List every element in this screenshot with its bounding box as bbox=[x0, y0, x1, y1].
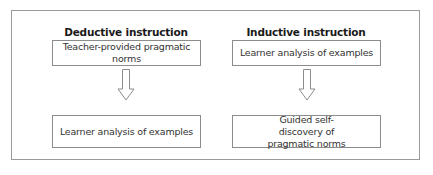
inductive-step-1-label: Learner analysis of examples bbox=[240, 47, 373, 59]
deductive-step-1-label: Teacher-provided pragmatic norms bbox=[57, 41, 196, 65]
down-arrow-icon bbox=[117, 69, 135, 101]
inductive-step-2-label: Guided self-discovery of pragmatic norms bbox=[263, 114, 350, 150]
deductive-step-2-box: Learner analysis of examples bbox=[52, 115, 201, 148]
down-arrow-icon bbox=[298, 69, 316, 101]
inductive-step-2-box: Guided self-discovery of pragmatic norms bbox=[232, 115, 381, 148]
deductive-step-2-label: Learner analysis of examples bbox=[60, 126, 193, 138]
inductive-heading: Inductive instruction bbox=[231, 26, 381, 38]
inductive-step-1-box: Learner analysis of examples bbox=[232, 40, 381, 66]
deductive-heading: Deductive instruction bbox=[51, 26, 201, 38]
deductive-step-1-box: Teacher-provided pragmatic norms bbox=[52, 40, 201, 66]
